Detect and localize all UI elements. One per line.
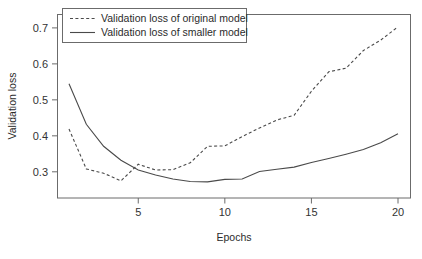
y-axis-title: Validation loss [6,73,18,140]
chart-legend: Validation loss of original model Valida… [63,9,248,43]
y-tick-label: 0.5 [33,94,48,106]
validation-loss-line-chart: 0.30.40.50.60.7 5101520 Epochs Validatio… [0,0,422,259]
legend-label-smaller-model: Validation loss of smaller model [101,26,248,38]
x-tick-label: 5 [135,206,141,218]
x-axis-title: Epochs [216,231,251,243]
x-tick-label: 10 [219,206,231,218]
x-tick-label: 20 [392,206,404,218]
x-tick-label: 15 [305,206,317,218]
y-tick-label: 0.6 [33,58,48,70]
chart-figure: 0.30.40.50.60.7 5101520 Epochs Validatio… [0,0,422,259]
legend-label-original-model: Validation loss of original model [101,12,248,24]
y-tick-label: 0.3 [33,166,48,178]
y-tick-label: 0.4 [33,130,48,142]
y-tick-label: 0.7 [33,22,48,34]
